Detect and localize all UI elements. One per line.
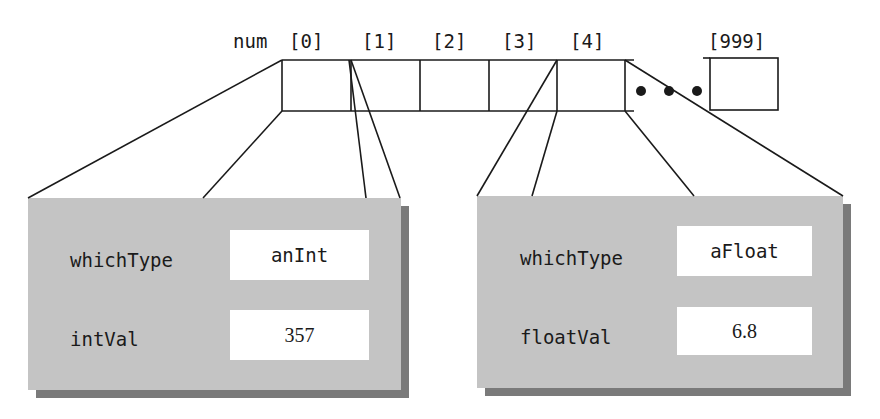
expand-line-4 [625, 111, 694, 196]
expand-line-0 [349, 60, 366, 198]
expand-line-0 [351, 60, 400, 198]
ellipsis-dot [664, 86, 674, 96]
expand-line-4 [625, 60, 843, 196]
ellipsis-dot [692, 86, 702, 96]
cell-999 [710, 58, 778, 110]
ellipsis-dots [636, 86, 702, 96]
expand-line-4 [532, 111, 557, 196]
array-diagram [0, 0, 880, 419]
ellipsis-dot [636, 86, 646, 96]
expand-line-0 [203, 111, 282, 198]
expand-line-0 [28, 60, 282, 198]
